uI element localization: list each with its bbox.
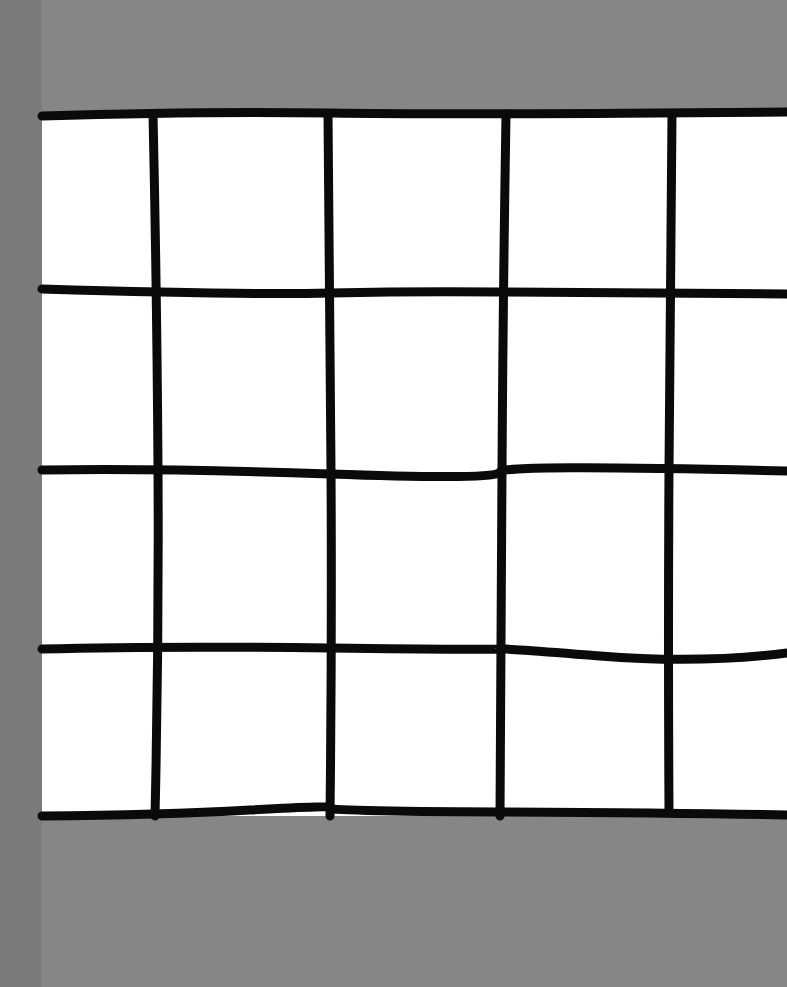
grid-line-v3: [500, 114, 506, 816]
grid-line-v2: [328, 114, 331, 816]
hand-drawn-grid: [0, 0, 787, 987]
grid-line-v1: [153, 114, 158, 816]
grid-line-v4: [669, 114, 673, 812]
